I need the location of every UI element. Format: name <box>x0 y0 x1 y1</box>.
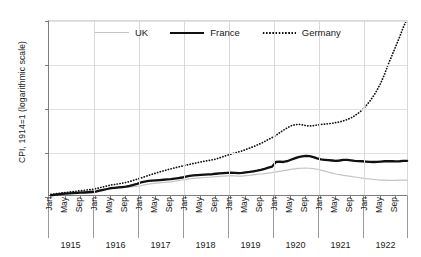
x-tick-label-month: Sep <box>210 197 219 212</box>
chart-legend: UK France Germany <box>95 27 341 38</box>
x-tick-label-month: Jan <box>135 197 144 211</box>
x-tick-label-year: 1917 <box>138 240 183 250</box>
legend-label-germany: Germany <box>302 27 341 38</box>
y-tick-mark <box>45 153 49 154</box>
x-axis-year-group: JanMaySep1917 <box>138 196 183 254</box>
x-tick-label-month: May <box>375 197 384 213</box>
plot-year-divider <box>94 21 95 195</box>
x-tick-label-year: 1916 <box>93 240 138 250</box>
x-tick-label-month: Jan <box>315 197 324 211</box>
x-tick-label-year: 1919 <box>228 240 273 250</box>
x-tick-label-year: 1920 <box>273 240 318 250</box>
x-axis-year-group: JanMaySep1916 <box>93 196 138 254</box>
x-tick-label-month: Jan <box>360 197 369 211</box>
plot-area <box>48 20 408 196</box>
cpi-line-chart: CPI, 1914=1 (logarithmic scale) 15251256… <box>0 0 421 257</box>
gridline <box>49 109 407 110</box>
x-tick-label-month: May <box>240 197 249 213</box>
x-axis-year-group: JanMaySep1915 <box>48 196 93 254</box>
gridline <box>49 21 407 22</box>
x-axis-year-group: JanMaySep1918 <box>183 196 228 254</box>
y-tick-mark <box>45 65 49 66</box>
gridline <box>49 153 407 154</box>
x-tick-label-month: May <box>285 197 294 213</box>
plot-year-divider <box>274 21 275 195</box>
plot-year-divider <box>319 21 320 195</box>
x-axis-year-group: JanMaySep1919 <box>228 196 273 254</box>
x-tick-label-month: May <box>195 197 204 213</box>
x-tick-label-year: 1922 <box>363 240 408 250</box>
x-tick-label-month: Sep <box>75 197 84 212</box>
x-tick-label-year: 1915 <box>48 240 93 250</box>
plot-year-divider <box>184 21 185 195</box>
x-axis: JanMaySep1915JanMaySep1916JanMaySep1917J… <box>48 196 408 254</box>
legend-label-france: France <box>210 27 240 38</box>
plot-year-divider <box>229 21 230 195</box>
legend-swatch-france-icon <box>170 28 204 37</box>
x-tick-label-month: Jan <box>270 197 279 211</box>
x-tick-label-month: May <box>330 197 339 213</box>
legend-swatch-uk-icon <box>95 28 129 37</box>
legend-item-france: France <box>170 27 262 38</box>
legend-label-uk: UK <box>135 27 148 38</box>
x-tick-label-month: Sep <box>345 197 354 212</box>
y-tick-mark <box>45 109 49 110</box>
x-tick-label-month: Jan <box>45 197 54 211</box>
x-tick-label-month: Sep <box>390 197 399 212</box>
x-tick-label-month: Jan <box>180 197 189 211</box>
x-tick-label-month: Sep <box>300 197 309 212</box>
legend-item-uk: UK <box>95 27 170 38</box>
x-axis-year-divider <box>407 196 408 238</box>
x-tick-label-month: Sep <box>255 197 264 212</box>
x-tick-label-month: May <box>60 197 69 213</box>
plot-year-divider <box>139 21 140 195</box>
x-tick-label-month: May <box>150 197 159 213</box>
x-tick-label-month: May <box>105 197 114 213</box>
x-tick-label-month: Sep <box>120 197 129 212</box>
y-tick-mark <box>45 21 49 22</box>
legend-item-germany: Germany <box>262 27 341 38</box>
x-tick-label-month: Jan <box>90 197 99 211</box>
x-axis-year-group: JanMaySep1922 <box>363 196 408 254</box>
y-axis-title: CPI, 1914=1 (logarithmic scale) <box>17 17 27 187</box>
gridline <box>49 65 407 66</box>
x-axis-year-group: JanMaySep1921 <box>318 196 363 254</box>
plot-year-divider <box>364 21 365 195</box>
x-axis-year-group: JanMaySep1920 <box>273 196 318 254</box>
x-tick-label-year: 1921 <box>318 240 363 250</box>
x-tick-label-month: Jan <box>225 197 234 211</box>
legend-swatch-germany-icon <box>262 28 296 37</box>
x-tick-label-month: Sep <box>165 197 174 212</box>
x-tick-label-year: 1918 <box>183 240 228 250</box>
